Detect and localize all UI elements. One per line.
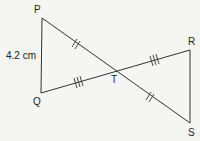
vertex-label-s: S xyxy=(188,127,195,138)
vertex-label-r: R xyxy=(188,36,195,47)
vertex-label-t: T xyxy=(111,74,117,85)
segment-ps xyxy=(42,18,190,123)
triangles-figure: P Q R S T 4.2 cm xyxy=(0,0,200,141)
side-length-label-pq: 4.2 cm xyxy=(6,50,36,61)
vertex-label-q: Q xyxy=(33,96,41,107)
segment-pq xyxy=(41,18,42,93)
tick-marks-qt-triple xyxy=(74,76,83,88)
diagram-canvas: P Q R S T 4.2 cm xyxy=(0,0,200,141)
segment-qr xyxy=(41,50,190,93)
tick-marks-tr-triple xyxy=(150,54,159,66)
vertex-label-p: P xyxy=(34,4,41,15)
